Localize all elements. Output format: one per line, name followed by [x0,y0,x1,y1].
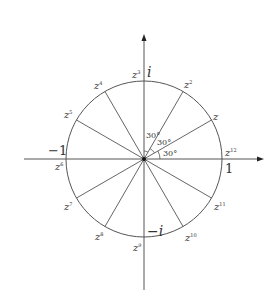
angle-label-1: 30° [163,149,177,158]
angle-label-3: 30° [146,131,160,140]
root-label-z3: z3 [131,69,140,80]
root-label-z1: z [212,111,219,122]
root-label-z5: z5 [63,109,72,120]
root-label-z11: z11 [213,201,226,212]
root-label-z12: z12 [224,147,237,158]
root-label-z2: z2 [183,79,192,90]
label-minus-one: −1 [48,143,67,158]
root-label-z4: z4 [93,80,102,91]
label-one: 1 [225,161,233,176]
root-label-z6: z6 [54,161,63,172]
origin-dot [142,157,146,161]
label-minus-i: −i [147,223,163,239]
real-axis-arrow-icon [257,157,264,162]
root-label-z8: z8 [94,231,103,242]
unit-circle-diagram: 30° 30° 30° 1 −1 i −i z z2 z3 z4 z5 z6 z… [0,0,279,301]
root-label-z9: z9 [132,242,141,253]
label-i: i [147,64,151,80]
root-label-z7: z7 [63,201,72,212]
imaginary-axis-arrow-icon [142,34,147,41]
root-label-z10: z10 [184,232,197,243]
